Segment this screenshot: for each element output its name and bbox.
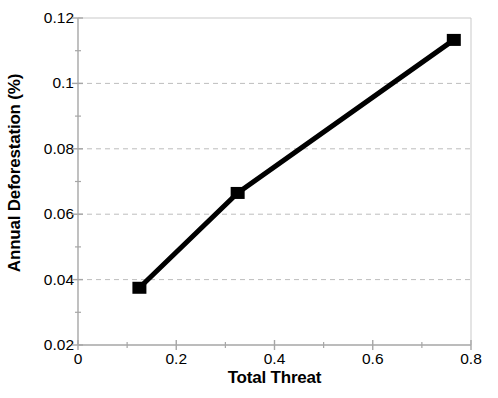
- data-series-line: [139, 40, 453, 288]
- data-point-marker[interactable]: [447, 34, 461, 46]
- data-point-marker[interactable]: [132, 282, 146, 294]
- x-axis-tick-label: 0.2: [146, 350, 206, 368]
- series-line: [139, 40, 453, 288]
- gridlines: [78, 83, 471, 279]
- x-axis-title: Total Threat: [78, 368, 471, 388]
- x-axis-tick-label: 0.6: [343, 350, 403, 368]
- x-axis-tick-label: 0: [48, 350, 108, 368]
- x-axis-tick-label: 0.4: [245, 350, 305, 368]
- x-axis-tick-label: 0.8: [441, 350, 498, 368]
- plot-area: [0, 0, 498, 398]
- data-point-marker[interactable]: [231, 187, 245, 199]
- chart-container: Annual Deforestation (%) 0.020.040.060.0…: [0, 0, 498, 398]
